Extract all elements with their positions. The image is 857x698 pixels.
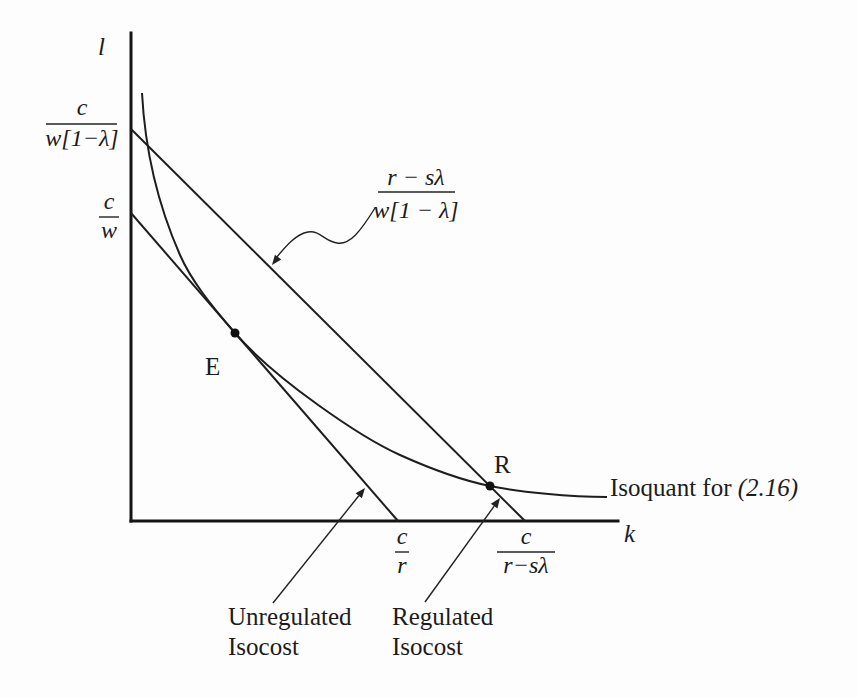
y-intercept-unregulated-numerator: c: [104, 188, 115, 214]
x-axis-label: k: [624, 520, 636, 547]
annotation-line2: Isocost: [392, 633, 463, 660]
isoquant-curve: [142, 93, 607, 497]
point-e-marker: [231, 329, 240, 338]
x-intercept-unregulated-numerator: c: [397, 523, 408, 549]
isoquant-isocost-diagram: l k c w[1−λ] c w c r c r−sλ E R r − sλ w…: [0, 0, 857, 698]
annotation-line1: Unregulated: [228, 603, 352, 630]
wavy-arrow-icon: [276, 208, 375, 258]
y-intercept-unregulated-denominator: w: [101, 217, 117, 243]
x-intercept-unregulated-denominator: r: [397, 552, 407, 578]
y-intercept-unregulated: c w: [99, 188, 119, 243]
x-intercept-regulated-numerator: c: [521, 523, 532, 549]
x-intercept-regulated: c r−sλ: [497, 523, 555, 578]
arrowhead-icon: [491, 498, 500, 508]
annotation-line2: Isocost: [228, 633, 299, 660]
x-intercept-unregulated: c r: [395, 523, 409, 578]
point-r-label: R: [494, 451, 511, 478]
y-intercept-regulated: c w[1−λ]: [45, 94, 118, 151]
unregulated-isocost-annotation: Unregulated Isocost: [228, 603, 352, 660]
annotation-line1: Regulated: [392, 603, 494, 630]
slope-denominator: w[1 − λ]: [373, 197, 458, 223]
arrowhead-icon: [356, 488, 365, 498]
y-intercept-regulated-numerator: c: [77, 94, 88, 120]
x-intercept-regulated-denominator: r−sλ: [503, 552, 548, 578]
isoquant-label-text: Isoquant for: [610, 474, 738, 501]
unregulated-isocost-line: [131, 213, 398, 521]
unregulated-pointer-arrow: [273, 496, 359, 603]
slope-label: r − sλ w[1 − λ]: [373, 164, 458, 223]
regulated-isocost-line: [131, 129, 525, 521]
slope-numerator: r − sλ: [387, 164, 444, 190]
isoquant-label: Isoquant for (2.16): [610, 474, 798, 502]
arrowhead-icon: [272, 255, 281, 265]
y-axis-label: l: [98, 33, 105, 60]
isoquant-equation-ref: (2.16): [738, 474, 798, 502]
y-intercept-regulated-denominator: w[1−λ]: [45, 125, 118, 151]
point-e-label: E: [205, 353, 220, 380]
point-r-marker: [486, 482, 495, 491]
regulated-isocost-annotation: Regulated Isocost: [392, 603, 494, 660]
